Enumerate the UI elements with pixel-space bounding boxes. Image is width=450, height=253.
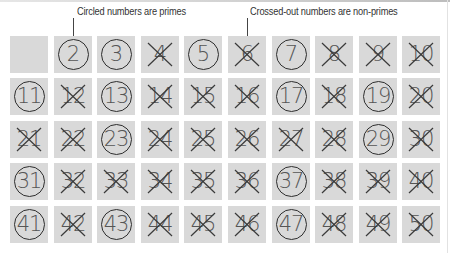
prime-circle-icon xyxy=(363,124,394,155)
cross-out-icon xyxy=(364,168,392,195)
grid-cell-nonprime: 9 xyxy=(359,36,397,73)
grid-cell-nonprime: 8 xyxy=(315,36,353,73)
cross-out-icon xyxy=(364,41,392,68)
grid-cell-nonprime: 18 xyxy=(315,78,353,115)
prime-circle-icon xyxy=(14,166,45,197)
prime-circle-icon xyxy=(101,124,132,155)
grid-cell-nonprime: 20 xyxy=(402,78,440,115)
cross-out-icon xyxy=(146,211,174,238)
right-border xyxy=(447,0,448,253)
grid-cell-prime: 31 xyxy=(10,163,48,200)
grid-cell-nonprime: 34 xyxy=(141,163,179,200)
cross-out-icon xyxy=(189,126,217,153)
grid-cell-prime: 3 xyxy=(97,36,135,73)
grid-cell-nonprime: 27 xyxy=(272,121,310,158)
prime-circle-icon xyxy=(276,39,307,70)
prime-circle-icon xyxy=(14,81,45,112)
grid-cell-prime: 17 xyxy=(272,78,310,115)
prime-circle-icon xyxy=(276,81,307,112)
cross-out-icon xyxy=(189,83,217,110)
cross-out-icon xyxy=(407,126,435,153)
grid-cell-nonprime: 38 xyxy=(315,163,353,200)
cross-out-icon xyxy=(233,83,261,110)
cross-out-icon xyxy=(320,211,348,238)
grid-cell-nonprime: 26 xyxy=(228,121,266,158)
grid-cell-prime: 7 xyxy=(272,36,310,73)
cross-out-icon xyxy=(233,126,261,153)
cross-out-icon xyxy=(364,211,392,238)
grid-cell-nonprime: 22 xyxy=(54,121,92,158)
prime-circle-icon xyxy=(276,209,307,240)
grid-cell-nonprime: 46 xyxy=(228,206,266,243)
cross-out-icon xyxy=(146,83,174,110)
grid-cell-prime: 11 xyxy=(10,78,48,115)
cross-out-icon xyxy=(59,168,87,195)
cross-out-icon xyxy=(233,41,261,68)
grid-cell-prime: 43 xyxy=(97,206,135,243)
grid-cell-nonprime: 32 xyxy=(54,163,92,200)
cross-out-icon xyxy=(320,83,348,110)
cross-out-icon xyxy=(15,126,43,153)
cross-out-icon xyxy=(233,168,261,195)
cross-out-icon xyxy=(189,168,217,195)
grid-cell-nonprime: 25 xyxy=(184,121,222,158)
cross-out-icon xyxy=(59,126,87,153)
grid-cell-nonprime: 40 xyxy=(402,163,440,200)
grid-cell-prime: 19 xyxy=(359,78,397,115)
cross-out-icon xyxy=(407,211,435,238)
grid-cell-nonprime: 14 xyxy=(141,78,179,115)
prime-circle-icon xyxy=(363,81,394,112)
grid-cell-nonprime: 6 xyxy=(228,36,266,73)
cross-out-icon xyxy=(146,168,174,195)
grid-cell-blank xyxy=(10,36,48,73)
grid-cell-nonprime: 15 xyxy=(184,78,222,115)
cross-out-icon xyxy=(233,211,261,238)
grid-cell-prime: 29 xyxy=(359,121,397,158)
cross-out-icon xyxy=(277,126,305,153)
cross-out-icon xyxy=(59,211,87,238)
top-border xyxy=(0,0,450,2)
prime-circle-icon xyxy=(101,81,132,112)
grid-cell-nonprime: 10 xyxy=(402,36,440,73)
grid-cell-nonprime: 28 xyxy=(315,121,353,158)
cross-out-icon xyxy=(320,168,348,195)
grid-cell-prime: 13 xyxy=(97,78,135,115)
prime-circle-icon xyxy=(14,209,45,240)
grid-cell-prime: 37 xyxy=(272,163,310,200)
grid-cell-nonprime: 12 xyxy=(54,78,92,115)
grid-cell-nonprime: 4 xyxy=(141,36,179,73)
grid-cell-prime: 23 xyxy=(97,121,135,158)
grid-cell-nonprime: 33 xyxy=(97,163,135,200)
cross-out-icon xyxy=(407,168,435,195)
cross-out-icon xyxy=(146,41,174,68)
grid-cell-nonprime: 36 xyxy=(228,163,266,200)
grid-cell-prime: 5 xyxy=(184,36,222,73)
primes-annotation: Circled numbers are primes xyxy=(77,5,186,17)
prime-circle-icon xyxy=(101,209,132,240)
grid-cell-nonprime: 24 xyxy=(141,121,179,158)
cross-out-icon xyxy=(102,168,130,195)
grid-cell-nonprime: 48 xyxy=(315,206,353,243)
prime-circle-icon xyxy=(101,39,132,70)
cross-out-icon xyxy=(320,126,348,153)
cross-out-icon xyxy=(189,211,217,238)
grid-cell-nonprime: 35 xyxy=(184,163,222,200)
cross-out-icon xyxy=(407,41,435,68)
prime-circle-icon xyxy=(58,39,89,70)
grid-cell-prime: 2 xyxy=(54,36,92,73)
cross-out-icon xyxy=(59,83,87,110)
grid-cell-nonprime: 42 xyxy=(54,206,92,243)
grid-cell-nonprime: 44 xyxy=(141,206,179,243)
cross-out-icon xyxy=(407,83,435,110)
cross-out-icon xyxy=(320,41,348,68)
grid-cell-nonprime: 21 xyxy=(10,121,48,158)
grid-cell-nonprime: 50 xyxy=(402,206,440,243)
grid-cell-prime: 47 xyxy=(272,206,310,243)
grid-cell-nonprime: 30 xyxy=(402,121,440,158)
prime-circle-icon xyxy=(188,39,219,70)
grid-cell-prime: 41 xyxy=(10,206,48,243)
nonprimes-annotation: Crossed-out numbers are non-primes xyxy=(250,5,398,17)
grid-cell-nonprime: 16 xyxy=(228,78,266,115)
prime-circle-icon xyxy=(276,166,307,197)
grid-cell-nonprime: 49 xyxy=(359,206,397,243)
